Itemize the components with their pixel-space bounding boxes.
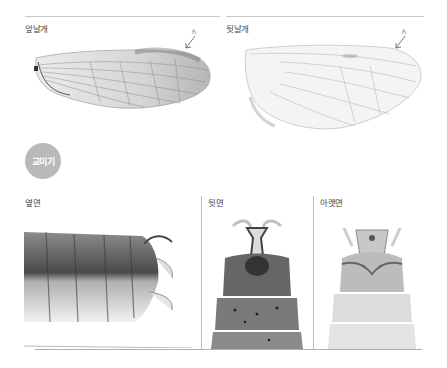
hindwing-image xyxy=(240,42,425,132)
dorsal-view-divider xyxy=(201,196,202,349)
forewing-annotation: f₁ xyxy=(192,28,197,35)
hindwing-arrow-icon xyxy=(392,34,408,52)
forewing-arrow-icon xyxy=(182,34,198,52)
dorsal-view-image xyxy=(205,218,309,349)
hindwing-annotation: f₁ xyxy=(402,28,407,35)
ventral-view-image xyxy=(320,218,424,349)
forewing-top-rule xyxy=(25,16,220,17)
hindwing-label: 뒷날개 xyxy=(226,22,249,34)
dorsal-view-label: 뒷면 xyxy=(208,196,223,208)
ventral-view-label: 아랫면 xyxy=(320,196,343,208)
lateral-view-image xyxy=(24,222,192,348)
lateral-view-label: 옆면 xyxy=(25,196,40,208)
forewing-label: 앞날개 xyxy=(25,22,48,34)
genitalia-section-badge: 교미기 xyxy=(25,143,61,179)
hindwing-top-rule xyxy=(226,16,424,17)
ventral-view-divider xyxy=(313,196,314,349)
bottom-rule xyxy=(35,349,422,350)
